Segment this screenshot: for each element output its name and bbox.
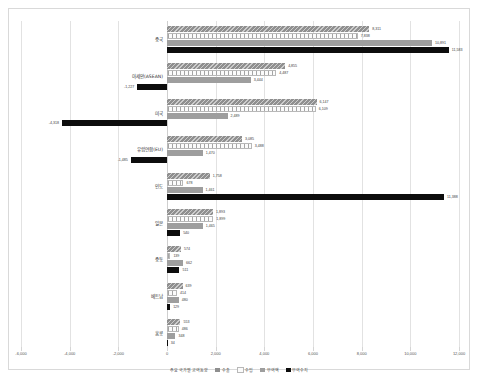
chart-legend[interactable]: 주요 국가별 교역동향 수출수입무역액무역수지 [9,365,469,375]
bar-value-label: -1,227 [124,84,134,90]
axis-tick-label: 2,000 [211,351,221,356]
axis-tick-label: 6,000 [308,351,318,356]
bar-무역수지[interactable] [137,84,167,90]
bar-group: 미국6,1476,1092,489-4,318 [21,99,459,126]
bar-value-label: 348 [178,333,184,339]
axis-tick-label: 10,000 [404,351,416,356]
bar-group: 아세안(ASEAN)4,8554,4873,444-1,227 [21,63,459,90]
bar-무역수지[interactable] [167,230,180,236]
legend-label: 무역수지 [292,367,308,373]
bar-수입[interactable] [167,253,170,259]
bar-value-label: 1,893 [216,209,225,215]
bar-group: 유럽연합(EU)3,0853,4881,470-1,485 [21,136,459,163]
bar-value-label: 1,470 [206,150,215,156]
bar-무역액[interactable] [167,187,203,193]
bar-group: 홍콩55348634834 [21,319,459,346]
legend-title: 주요 국가별 교역동향 [170,367,208,373]
bar-무역액[interactable] [167,113,228,119]
bar-수입[interactable] [167,216,213,222]
bar-value-label: 6,109 [319,106,328,112]
bar-무역액[interactable] [167,333,175,339]
bar-value-label: 129 [173,304,179,310]
bar-value-label: -4,318 [49,120,59,126]
bar-수입[interactable] [167,33,358,39]
category-label: 홍콩 [21,330,163,336]
bar-value-label: 480 [182,297,188,303]
bar-무역수지[interactable] [167,267,179,273]
bar-수출[interactable] [167,63,285,69]
axis-tick-label: -4,000 [64,351,75,356]
bar-수출[interactable] [167,99,317,105]
bar-수출[interactable] [167,283,183,289]
bar-무역액[interactable] [167,150,203,156]
bar-group: 일본1,8931,8991,465540 [21,209,459,236]
bar-value-label: 639 [186,283,192,289]
bar-수출[interactable] [167,246,181,252]
bar-무역액[interactable] [167,260,183,266]
bar-value-label: 3,488 [255,143,264,149]
bar-value-label: 7,838 [361,33,370,39]
category-label: 인도 [21,183,163,189]
bar-group: 베트남639414480129 [21,283,459,310]
bar-value-label: 10,891 [435,40,446,46]
legend-swatch-icon [260,368,265,372]
x-axis: -6,000-4,000-2,00002,0004,0006,0008,0001… [21,351,459,363]
gridline [459,21,460,351]
bar-value-label: 139 [173,253,179,259]
bar-value-label: 2,489 [231,113,240,119]
bar-무역액[interactable] [167,77,251,83]
bar-무역액[interactable] [167,40,432,46]
bar-수입[interactable] [167,143,252,149]
bar-수입[interactable] [167,70,276,76]
bar-value-label: 553 [183,319,189,325]
bar-value-label: 1,758 [213,173,222,179]
bar-무역수지[interactable] [167,340,168,346]
bar-수출[interactable] [167,136,242,142]
bar-수출[interactable] [167,209,213,215]
bar-value-label: 1,465 [206,223,215,229]
bar-무역수지[interactable] [131,157,167,163]
bar-value-label: 3,444 [254,77,263,83]
bar-무역수지[interactable] [167,194,444,200]
bar-group: 인도1,7586781,46111,388 [21,173,459,200]
bar-value-label: 1,461 [206,187,215,193]
bar-value-label: 11,388 [447,194,458,200]
category-label: 일본 [21,220,163,226]
bar-value-label: 4,855 [288,63,297,69]
bar-value-label: 8,311 [372,26,381,32]
bar-value-label: -1,485 [118,157,128,163]
bar-value-label: 3,085 [245,136,254,142]
category-label: 중국 [21,36,163,42]
bar-수출[interactable] [167,26,369,32]
bar-group: 중동574139662511 [21,246,459,273]
bar-수출[interactable] [167,173,210,179]
bar-value-label: 6,147 [320,99,329,105]
bar-value-label: 414 [180,290,186,296]
bar-무역액[interactable] [167,297,179,303]
category-label: 베트남 [21,293,163,299]
bar-수입[interactable] [167,106,316,112]
bar-무역수지[interactable] [167,47,449,53]
category-label: 중동 [21,256,163,262]
bar-value-label: 486 [182,326,188,332]
bar-수입[interactable] [167,326,179,332]
legend-item-수입[interactable]: 수입 [237,367,254,373]
bar-무역수지[interactable] [62,120,167,126]
axis-tick-label: -2,000 [113,351,124,356]
bar-value-label: 4,487 [279,70,288,76]
legend-label: 수입 [245,367,253,373]
legend-item-무역액[interactable]: 무역액 [260,367,279,373]
category-label: 아세안(ASEAN) [21,73,163,79]
bar-value-label: 1,899 [216,216,225,222]
bar-수출[interactable] [167,319,180,325]
bar-무역액[interactable] [167,223,203,229]
bar-value-label: 662 [186,260,192,266]
legend-swatch-icon [286,368,291,372]
bar-value-label: 678 [186,180,192,186]
bar-value-label: 574 [184,246,190,252]
legend-item-수출[interactable]: 수출 [215,367,230,373]
bar-수입[interactable] [167,290,177,296]
bar-무역수지[interactable] [167,304,170,310]
bar-수입[interactable] [167,180,183,186]
legend-item-무역수지[interactable]: 무역수지 [286,367,309,373]
